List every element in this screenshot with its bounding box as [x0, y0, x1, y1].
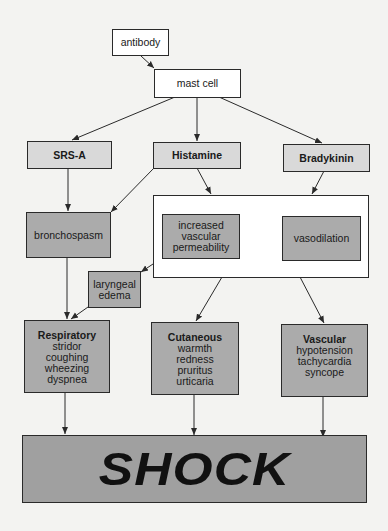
histamine-node: Histamine: [153, 142, 241, 169]
vasodilation-node: vasodilation: [282, 216, 361, 261]
increased-vascular-permeability-node: increased vascular permeability: [162, 214, 240, 259]
vascular-node: Vascular hypotension tachycardia syncope: [281, 324, 368, 397]
mast-cell-label: mast cell: [177, 78, 218, 89]
mast-cell-node: mast cell: [154, 69, 241, 98]
respiratory-node: Respiratory stridor coughing wheezing dy…: [24, 320, 110, 393]
srs-a-node: SRS-A: [27, 141, 112, 169]
bradykinin-node: Bradykinin: [283, 144, 370, 172]
shock-node: SHOCK: [22, 435, 367, 503]
bronchospasm-node: bronchospasm: [26, 212, 111, 258]
bronchospasm-label: bronchospasm: [34, 230, 103, 241]
shock-label: SHOCK: [99, 446, 291, 492]
symptom-item: urticaria: [176, 376, 213, 387]
symptom-item: dyspnea: [47, 374, 87, 385]
vasodilation-label: vasodilation: [294, 233, 349, 244]
antibody-node: antibody: [112, 29, 169, 56]
ivp-line-3: permeability: [173, 242, 230, 253]
histamine-label: Histamine: [172, 150, 222, 161]
laryngeal-edema-node: laryngeal edema: [88, 271, 141, 308]
laryngeal-edema-line-2: edema: [98, 290, 130, 301]
symptom-item: syncope: [305, 367, 344, 378]
srs-a-label: SRS-A: [53, 150, 86, 161]
laryngeal-edema-line-1: laryngeal: [93, 279, 136, 290]
bradykinin-label: Bradykinin: [299, 153, 353, 164]
antibody-label: antibody: [121, 37, 161, 48]
cutaneous-node: Cutaneous warmth redness pruritus urtica…: [151, 322, 239, 395]
